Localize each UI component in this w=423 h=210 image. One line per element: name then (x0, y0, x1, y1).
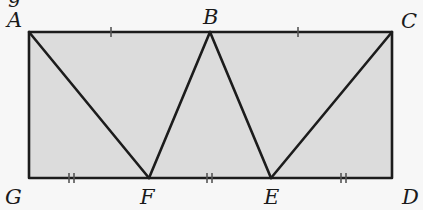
label-C: C (401, 9, 417, 33)
label-E: E (263, 185, 279, 209)
label-A: A (5, 8, 22, 32)
label-B: B (202, 5, 218, 29)
label-D: D (401, 185, 419, 209)
geometry-diagram: g A B C G F E D (0, 0, 423, 210)
cropped-text-fragment: g (8, 0, 21, 8)
label-F: F (139, 185, 156, 209)
label-G: G (5, 185, 22, 209)
shaded-rectangle (29, 32, 392, 178)
